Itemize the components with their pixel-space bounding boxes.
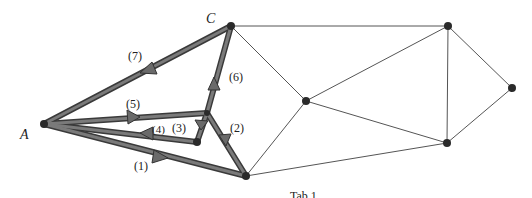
node-D: [193, 138, 201, 146]
node-M: [204, 110, 210, 116]
step-label-6: (6): [229, 71, 243, 83]
arrow-5-icon: [127, 110, 140, 124]
path-edges: [44, 26, 246, 176]
nodes: [40, 22, 516, 180]
figure-caption: Tab 1: [290, 189, 317, 198]
node-H: [443, 139, 451, 147]
node-C: [227, 22, 235, 30]
graph-diagram: A C (1) (2) (3) (4) (5) (6) (7) Tab 1: [0, 0, 532, 198]
step-label-4: (4): [152, 124, 165, 135]
graph-svg: [0, 0, 532, 198]
node-label-c: C: [206, 12, 215, 26]
node-B: [242, 172, 250, 180]
step-label-5: (5): [126, 98, 140, 110]
step-label-7: (7): [128, 50, 142, 62]
node-G: [508, 84, 516, 92]
node-E: [302, 97, 310, 105]
step-label-2: (2): [230, 122, 244, 134]
step-label-1: (1): [134, 160, 148, 172]
step-label-3: (3): [172, 122, 186, 134]
node-F: [444, 22, 452, 30]
node-A: [40, 120, 48, 128]
arrow-3-icon: [195, 120, 208, 130]
node-label-a: A: [20, 128, 29, 142]
thin-edges: [231, 26, 512, 176]
